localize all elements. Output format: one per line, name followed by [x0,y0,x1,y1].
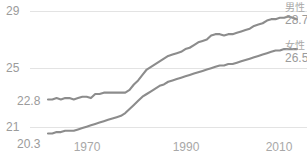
series-label-female-value: 26.5 [285,52,307,64]
series-line-male [48,16,297,99]
series-label-male: 男性 28.7 [285,2,307,26]
x-axis-tick-2010: 2010 [266,141,293,153]
series-label-male-value: 28.7 [285,14,307,26]
series-line-female [48,49,297,133]
x-axis-tick-1970: 1970 [74,141,101,153]
series-label-female: 女性 26.5 [285,40,307,64]
plot-area [0,0,307,161]
x-axis-tick-1990: 1990 [173,141,200,153]
line-chart: 29 25 21 22.8 20.3 1970 1990 2010 男性 28.… [0,0,307,161]
